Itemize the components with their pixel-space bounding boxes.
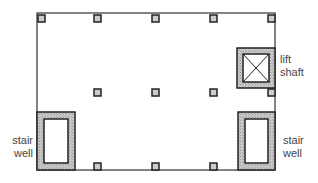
floor-plan [0,0,318,183]
column [94,89,101,96]
lift-shaft [237,48,275,88]
stair-well-left-label: stair well [1,134,33,160]
column [210,15,217,22]
column [152,89,159,96]
column [38,15,45,22]
stair-well-right-label: stair well [283,134,304,160]
lift-label-line2: shaft [280,66,304,79]
stair-well-left [37,112,75,170]
stair-well-right [238,112,275,170]
column [210,89,217,96]
stair-left-label-line2: well [1,147,33,160]
stair-right-label-line1: stair [283,134,304,147]
column [152,163,159,170]
lift-shaft-label: lift shaft [280,53,304,79]
lift-label-line1: lift [280,53,304,66]
column [268,89,275,96]
column [152,15,159,22]
column [94,163,101,170]
column [210,163,217,170]
column [268,15,275,22]
stair-left-label-line1: stair [1,134,33,147]
column [94,15,101,22]
stair-right-label-line2: well [283,147,304,160]
